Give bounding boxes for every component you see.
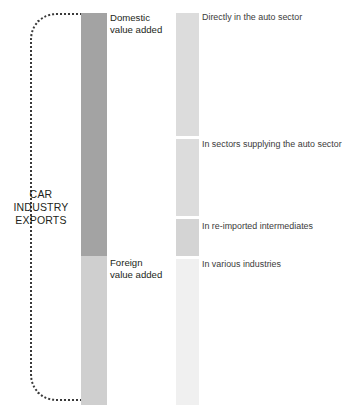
label-reimported-intermediates: In re-imported intermediates (202, 221, 313, 232)
label-supplying-sectors: In sectors supplying the auto sector (202, 139, 342, 150)
bar-segment-various-industries (176, 259, 199, 405)
bar-segment-directly-auto-sector (176, 13, 199, 136)
bar-segment-supplying-sectors (176, 139, 199, 216)
bar-segment-foreign-value-added (81, 256, 107, 405)
bar-segment-domestic-value-added (81, 13, 107, 256)
label-domestic-value-added: Domestic value added (110, 12, 162, 37)
bar-segment-reimported-intermediates (176, 219, 199, 256)
label-various-industries: In various industries (202, 259, 281, 270)
primary-bar-column (81, 13, 107, 405)
secondary-bar-column (176, 13, 199, 405)
source-label: CAR INDUSTRY EXPORTS (4, 188, 78, 227)
label-foreign-value-added: Foreign value added (110, 257, 162, 282)
label-directly-auto-sector: Directly in the auto sector (202, 12, 302, 23)
